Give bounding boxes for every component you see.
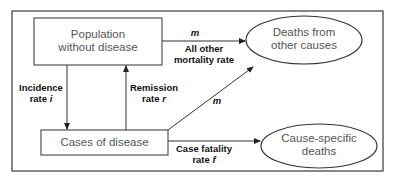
remission-symbol: r bbox=[162, 93, 166, 104]
case-fatality-rate-text: rate bbox=[192, 154, 212, 165]
deaths-cause-label: Cause-specific deaths bbox=[261, 132, 377, 158]
other-mortality-symbol-top: m bbox=[188, 28, 202, 39]
cases-label: Cases of disease bbox=[41, 136, 168, 149]
remission-line2: rate r bbox=[128, 94, 180, 105]
deaths-other-line2: other causes bbox=[246, 39, 362, 52]
other-mortality-symbol-cases: m bbox=[210, 96, 224, 107]
deaths-cause-line1: Cause-specific bbox=[261, 132, 377, 145]
population-line1: Population bbox=[34, 28, 162, 41]
population-label: Population without disease bbox=[34, 28, 162, 54]
deaths-other-label: Deaths from other causes bbox=[246, 26, 362, 52]
deaths-other-line1: Deaths from bbox=[246, 26, 362, 39]
other-mortality-line2: mortality rate bbox=[164, 55, 244, 66]
remission-label: Remission rate r bbox=[128, 83, 180, 105]
other-mortality-label-top: All other mortality rate bbox=[164, 44, 244, 66]
incidence-symbol: i bbox=[50, 93, 53, 104]
case-fatality-line2: rate f bbox=[168, 155, 240, 166]
remission-rate-text: rate bbox=[142, 93, 162, 104]
incidence-label: Incidence rate i bbox=[17, 83, 65, 105]
deaths-cause-line2: deaths bbox=[261, 145, 377, 158]
case-fatality-symbol: f bbox=[212, 154, 215, 165]
incidence-line2: rate i bbox=[17, 94, 65, 105]
case-fatality-label: Case fatality rate f bbox=[168, 144, 240, 166]
incidence-rate-text: rate bbox=[30, 93, 50, 104]
population-line2: without disease bbox=[34, 41, 162, 54]
